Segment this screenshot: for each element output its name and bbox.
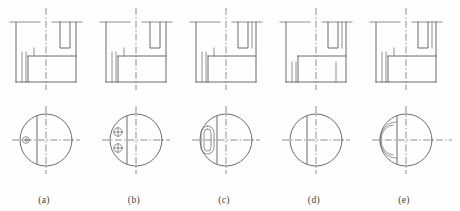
variant-b-group: (b) bbox=[100, 8, 172, 206]
top-slot-e bbox=[418, 22, 428, 48]
top-slot-d bbox=[328, 22, 338, 48]
hidden-rib-left-a bbox=[22, 52, 26, 82]
variant-c-group: (c) bbox=[190, 8, 262, 206]
variant-label-c: (c) bbox=[218, 195, 230, 206]
variant-b-front-view bbox=[100, 8, 172, 90]
inner-step-a bbox=[28, 56, 76, 82]
top-slot-a bbox=[60, 22, 70, 48]
hidden-rib-left-b bbox=[112, 52, 116, 82]
inner-step-c bbox=[208, 56, 256, 82]
variant-label-b: (b) bbox=[128, 195, 140, 206]
inner-step-d bbox=[298, 56, 346, 82]
variant-c-front-view bbox=[190, 8, 262, 90]
inner-step-b bbox=[118, 56, 166, 82]
drawing-sheet: (a) (b) bbox=[0, 0, 460, 211]
variant-label-e: (e) bbox=[398, 195, 410, 206]
hidden-rib-left-d bbox=[292, 62, 296, 82]
variant-label-a: (a) bbox=[38, 195, 50, 206]
top-slot-b bbox=[150, 22, 160, 48]
technical-drawing-canvas: (a) (b) bbox=[0, 0, 460, 211]
inner-step-e bbox=[388, 56, 436, 82]
variant-d-circle-view bbox=[282, 106, 350, 174]
variant-a-front-view bbox=[10, 8, 82, 90]
variant-e-circle-view bbox=[372, 106, 452, 174]
variant-a-group: (a) bbox=[10, 8, 82, 206]
variant-e-front-view bbox=[370, 8, 442, 90]
variant-b-circle-view bbox=[102, 106, 170, 174]
variant-c-circle-view bbox=[192, 106, 260, 174]
variant-a-circle-view bbox=[12, 106, 80, 174]
variant-e-group: (e) bbox=[370, 8, 452, 206]
variant-d-group: (d) bbox=[280, 8, 352, 206]
variant-label-d: (d) bbox=[308, 195, 320, 206]
variant-d-front-view bbox=[280, 8, 352, 90]
hidden-rib-left-c bbox=[202, 52, 206, 82]
top-slot-c bbox=[238, 22, 248, 48]
hidden-rib-left-e bbox=[382, 52, 386, 82]
